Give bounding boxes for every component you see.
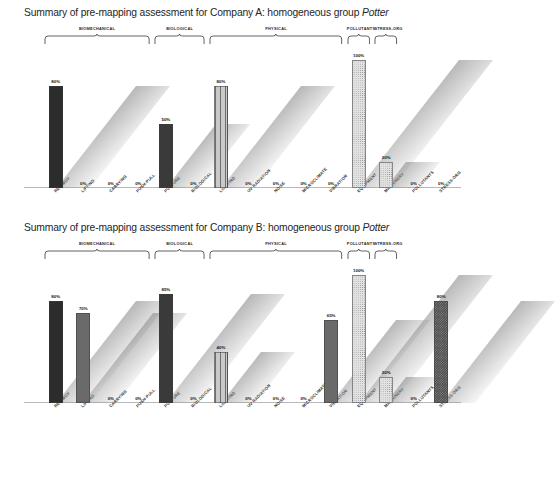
category-label: POLLUTANTS bbox=[347, 241, 371, 246]
category-label: BIOLOGICAL bbox=[154, 26, 205, 31]
bar-value-label: 20% bbox=[370, 155, 402, 160]
category-group: STRESS-ORG bbox=[374, 26, 398, 48]
category-band-a: BIOMECHANICALBIOLOGICALPHYSICALPOLLUTANT… bbox=[0, 26, 469, 48]
category-brace-icon bbox=[347, 249, 371, 260]
chart-title-b-group: Potter bbox=[363, 222, 390, 233]
category-brace-icon bbox=[154, 249, 205, 260]
bar-value-label: 85% bbox=[150, 287, 182, 292]
bar[interactable] bbox=[379, 377, 393, 403]
bar-value-label: 80% bbox=[205, 79, 237, 84]
plot-area-b: 80%70%0%0%85%0%40%0%0%0%65%100%20%0%80% bbox=[0, 261, 469, 403]
category-brace-icon bbox=[347, 34, 371, 45]
category-label: STRESS-ORG bbox=[374, 26, 398, 31]
bar-slot: 80% bbox=[49, 261, 63, 403]
bar-value-label: 80% bbox=[40, 294, 72, 299]
bar-value-label: 100% bbox=[343, 268, 375, 273]
bar[interactable] bbox=[159, 124, 173, 188]
bar-slot: 100% bbox=[352, 261, 366, 403]
bar-slot: 80% bbox=[214, 46, 228, 188]
bar-slot: 85% bbox=[159, 261, 173, 403]
bar[interactable] bbox=[324, 320, 338, 403]
category-group: PHYSICAL bbox=[209, 26, 343, 48]
bar-value-label: 0% bbox=[177, 181, 209, 186]
bar[interactable] bbox=[49, 301, 63, 403]
bar-value-label: 0% bbox=[315, 181, 347, 186]
bar-slot: 50% bbox=[159, 46, 173, 188]
bar[interactable] bbox=[379, 162, 393, 188]
category-group: PHYSICAL bbox=[209, 241, 343, 263]
bar[interactable] bbox=[214, 352, 228, 403]
bar[interactable] bbox=[214, 86, 228, 188]
category-brace-icon bbox=[44, 249, 150, 260]
category-group: BIOLOGICAL bbox=[154, 26, 205, 48]
bar-slot: 70% bbox=[76, 261, 90, 403]
category-brace-icon bbox=[154, 34, 205, 45]
bar-value-label: 40% bbox=[205, 345, 237, 350]
bar-value-label: 80% bbox=[40, 79, 72, 84]
category-group: BIOLOGICAL bbox=[154, 241, 205, 263]
bar-value-label: 0% bbox=[122, 181, 154, 186]
bar[interactable] bbox=[159, 294, 173, 403]
bar-slot: 65% bbox=[324, 261, 338, 403]
bar-slot: 0% bbox=[297, 261, 311, 403]
bar[interactable] bbox=[352, 60, 366, 188]
bar-value-label: 65% bbox=[315, 313, 347, 318]
category-brace-icon bbox=[44, 34, 150, 45]
bar-value-label: 80% bbox=[425, 294, 457, 299]
category-label: BIOMECHANICAL bbox=[44, 241, 150, 246]
category-label: BIOLOGICAL bbox=[154, 241, 205, 246]
category-brace-icon bbox=[374, 249, 398, 260]
bar-slot: 20% bbox=[379, 46, 393, 188]
bar[interactable] bbox=[76, 313, 90, 403]
category-brace-icon bbox=[209, 34, 343, 45]
plot-area-a: 80%0%0%0%50%0%80%0%0%0%0%100%20%0%0% bbox=[0, 46, 469, 188]
category-group: POLLUTANTS bbox=[347, 26, 371, 48]
category-label: PHYSICAL bbox=[209, 241, 343, 246]
category-label: BIOMECHANICAL bbox=[44, 26, 150, 31]
chart-title-a-text: Summary of pre-mapping assessment for Co… bbox=[24, 7, 362, 18]
bar-value-label: 0% bbox=[177, 396, 209, 401]
category-band-b: BIOMECHANICALBIOLOGICALPHYSICALPOLLUTANT… bbox=[0, 241, 469, 263]
bar-slot: 80% bbox=[49, 46, 63, 188]
chart-block-company-b: Summary of pre-mapping assessment for Co… bbox=[0, 215, 469, 456]
category-group: BIOMECHANICAL bbox=[44, 26, 150, 48]
category-label: POLLUTANTS bbox=[347, 26, 371, 31]
bar-value-label: 0% bbox=[425, 181, 457, 186]
bar-value-label: 0% bbox=[288, 396, 320, 401]
bar-slot: 0% bbox=[324, 46, 338, 188]
bar[interactable] bbox=[49, 86, 63, 188]
bar-slot: 80% bbox=[434, 261, 448, 403]
x-axis-labels-b: REP-MOVLIFTINGCARRYINGPUSH-PULLPOSTUREBI… bbox=[0, 403, 469, 453]
bar[interactable] bbox=[434, 301, 448, 403]
bar-value-label: 70% bbox=[67, 306, 99, 311]
category-label: STRESS-ORG bbox=[374, 241, 398, 246]
category-group: STRESS-ORG bbox=[374, 241, 398, 263]
category-label: PHYSICAL bbox=[209, 26, 343, 31]
category-group: BIOMECHANICAL bbox=[44, 241, 150, 263]
category-brace-icon bbox=[374, 34, 398, 45]
category-brace-icon bbox=[209, 249, 343, 260]
bar-value-label: 0% bbox=[398, 396, 430, 401]
bar-value-label: 20% bbox=[370, 370, 402, 375]
chart-block-company-a: Summary of pre-mapping assessment for Co… bbox=[0, 0, 469, 241]
category-group: POLLUTANTS bbox=[347, 241, 371, 263]
bar[interactable] bbox=[352, 275, 366, 403]
bar-value-label: 100% bbox=[343, 53, 375, 58]
chart-title-a-group: Potter bbox=[362, 7, 389, 18]
bar-value-label: 0% bbox=[122, 396, 154, 401]
bar-value-label: 50% bbox=[150, 117, 182, 122]
chart-title-b: Summary of pre-mapping assessment for Co… bbox=[24, 222, 389, 233]
chart-title-b-text: Summary of pre-mapping assessment for Co… bbox=[24, 222, 363, 233]
chart-title-a: Summary of pre-mapping assessment for Co… bbox=[24, 7, 389, 18]
bar-slot: 100% bbox=[352, 46, 366, 188]
